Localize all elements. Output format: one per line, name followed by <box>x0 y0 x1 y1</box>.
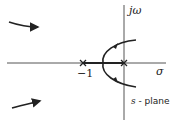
left-arrow-upper-icon <box>9 22 38 27</box>
s-plane-text: - plane <box>136 96 170 106</box>
left-arrow-lower-icon <box>12 101 40 108</box>
real-axis-label: σ <box>156 66 164 77</box>
pole-neg1-label: −1 <box>77 68 93 79</box>
imaginary-axis-label: jω <box>129 5 141 16</box>
s-plane-label: s - plane <box>131 97 170 106</box>
